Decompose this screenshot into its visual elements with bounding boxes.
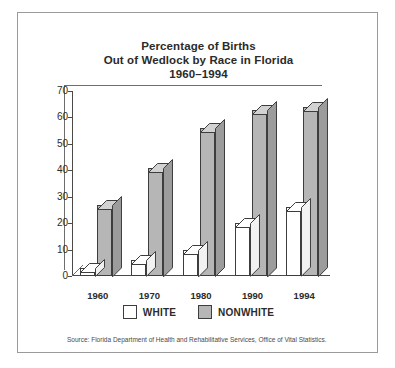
bar-top-face <box>200 119 215 128</box>
y-tick-label: 40 <box>44 164 68 175</box>
y-tick-mark <box>68 144 72 145</box>
bar-side-face <box>146 251 155 277</box>
y-tick-mark <box>68 276 72 277</box>
y-tick-label: 60 <box>44 111 68 122</box>
y-tick-label: 50 <box>44 138 68 149</box>
bar-top-face <box>97 196 112 205</box>
legend-item-nonwhite: NONWHITE <box>198 305 274 319</box>
x-tick-label: 1960 <box>75 290 121 301</box>
x-tick-label: 1994 <box>281 290 327 301</box>
y-tick-label: 20 <box>44 217 68 228</box>
bar-white-1970 <box>131 260 146 276</box>
bar-white-1990 <box>235 223 250 276</box>
bar-top-face <box>131 251 146 260</box>
bar-side-face <box>215 119 224 277</box>
wall-depth-top-edge <box>64 85 322 86</box>
x-tick-label: 1980 <box>178 290 224 301</box>
bar-top-face <box>252 101 267 110</box>
bar-side-face <box>163 159 172 277</box>
y-tick-mark <box>68 250 72 251</box>
chart-legend: WHITENONWHITE <box>18 305 379 319</box>
bar-front-face <box>235 223 250 276</box>
x-tick-label: 1990 <box>230 290 276 301</box>
y-tick-mark <box>68 223 72 224</box>
legend-item-white: WHITE <box>123 305 176 319</box>
chart-figure: Percentage of Births Out of Wedlock by R… <box>0 0 395 368</box>
plot-area: 010203040506070 19601970198019901994 <box>54 85 339 285</box>
bar-white-1960 <box>80 268 95 276</box>
y-tick-mark <box>68 197 72 198</box>
y-tick-mark <box>68 91 72 92</box>
chart-title-line-3: 1960–1994 <box>18 67 379 81</box>
legend-label: NONWHITE <box>218 307 274 318</box>
y-tick-mark <box>68 170 72 171</box>
bar-top-face <box>235 214 250 223</box>
bar-top-face <box>148 159 163 168</box>
chart-title-line-1: Percentage of Births <box>18 39 379 53</box>
bar-side-face <box>250 214 259 277</box>
bar-front-face <box>286 207 301 276</box>
bar-side-face <box>112 196 121 277</box>
y-tick-label: 70 <box>44 85 68 96</box>
bar-side-face <box>95 259 104 277</box>
bar-top-face <box>286 198 301 207</box>
bar-side-face <box>198 241 207 277</box>
y-tick-label: 0 <box>44 270 68 281</box>
x-tick-label: 1970 <box>126 290 172 301</box>
bar-top-face <box>80 259 95 268</box>
chart-title-line-2: Out of Wedlock by Race in Florida <box>18 53 379 67</box>
bar-side-face <box>318 98 327 277</box>
bar-side-face <box>301 198 310 277</box>
bar-white-1994 <box>286 207 301 276</box>
source-note: Source: Florida Department of Health and… <box>67 335 335 344</box>
legend-swatch-white <box>123 305 137 319</box>
y-tick-label: 30 <box>44 191 68 202</box>
chart-title: Percentage of Births Out of Wedlock by R… <box>18 39 379 81</box>
legend-swatch-nonwhite <box>198 305 212 319</box>
bar-top-face <box>303 98 318 107</box>
bar-top-face <box>183 241 198 250</box>
bar-white-1980 <box>183 250 198 276</box>
legend-label: WHITE <box>143 307 176 318</box>
chart-frame: Percentage of Births Out of Wedlock by R… <box>17 12 378 353</box>
y-tick-mark <box>68 117 72 118</box>
bar-side-face <box>267 101 276 278</box>
y-tick-label: 10 <box>44 244 68 255</box>
